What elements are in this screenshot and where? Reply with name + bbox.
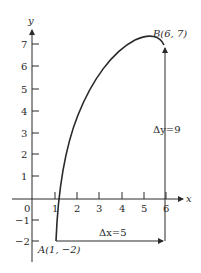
x-tick-label: 3 (96, 203, 102, 214)
y-tick-label: 4 (21, 106, 27, 117)
x-axis-label: x (186, 193, 192, 204)
y-tick-label: 7 (21, 39, 27, 50)
x-tick-label: 6 (163, 203, 169, 214)
x-tick-label: 4 (119, 203, 125, 214)
y-tick-label: 3 (21, 128, 27, 139)
coordinate-diagram: y x 7 6 5 4 3 2 1 −1 −2 0 1 2 3 4 5 6 Δx… (0, 0, 201, 273)
y-axis-label: y (27, 15, 34, 26)
curve-a-to-b (56, 36, 164, 241)
y-tick-label: 5 (21, 84, 27, 95)
y-tick-label: 2 (21, 149, 27, 160)
x-tick-label: 5 (141, 203, 147, 214)
point-b-label: B(6, 7) (152, 28, 187, 39)
y-ticks (32, 44, 39, 241)
y-tick-label: −2 (15, 236, 30, 247)
point-a-label: A(1, −2) (37, 244, 81, 255)
delta-y-label: Δy=9 (153, 124, 181, 135)
y-tick-label: −1 (15, 215, 30, 226)
y-tick-label: 6 (21, 61, 27, 72)
delta-x-label: Δx=5 (99, 227, 127, 238)
x-ticks (55, 192, 166, 199)
x-tick-label: 0 (24, 203, 30, 214)
y-tick-label: 1 (21, 171, 27, 182)
x-tick-label: 2 (74, 203, 80, 214)
